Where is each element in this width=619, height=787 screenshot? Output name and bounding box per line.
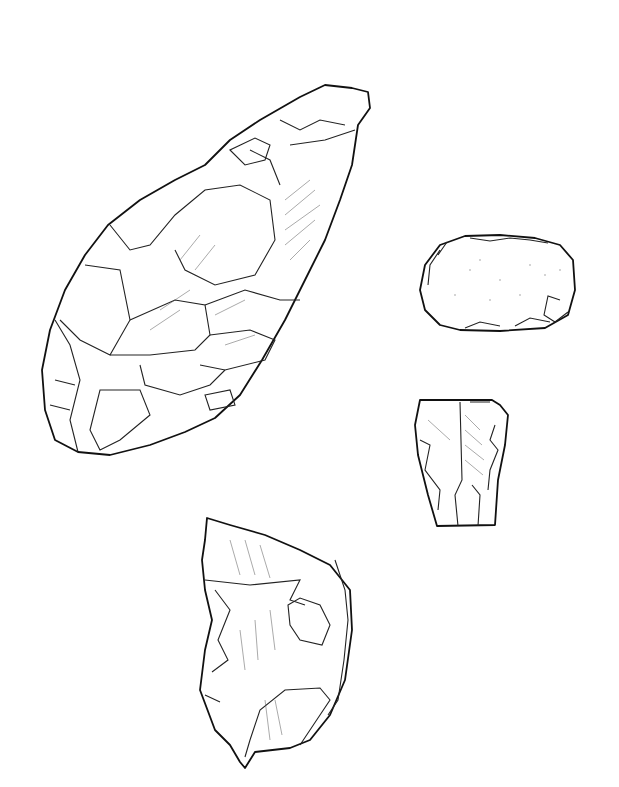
flake-with-cortex [200, 518, 352, 768]
handaxe [42, 85, 370, 455]
scraper-cortex [420, 235, 575, 331]
blade-fragment [415, 400, 508, 526]
stone-tools-illustration [0, 0, 619, 787]
